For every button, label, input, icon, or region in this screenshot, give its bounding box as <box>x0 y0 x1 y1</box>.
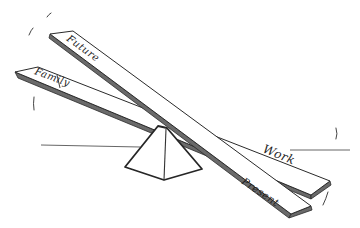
board-future-present <box>49 31 312 218</box>
seesaw-sketch: Future Present Family Work <box>0 0 360 228</box>
board-family-work <box>15 67 331 199</box>
